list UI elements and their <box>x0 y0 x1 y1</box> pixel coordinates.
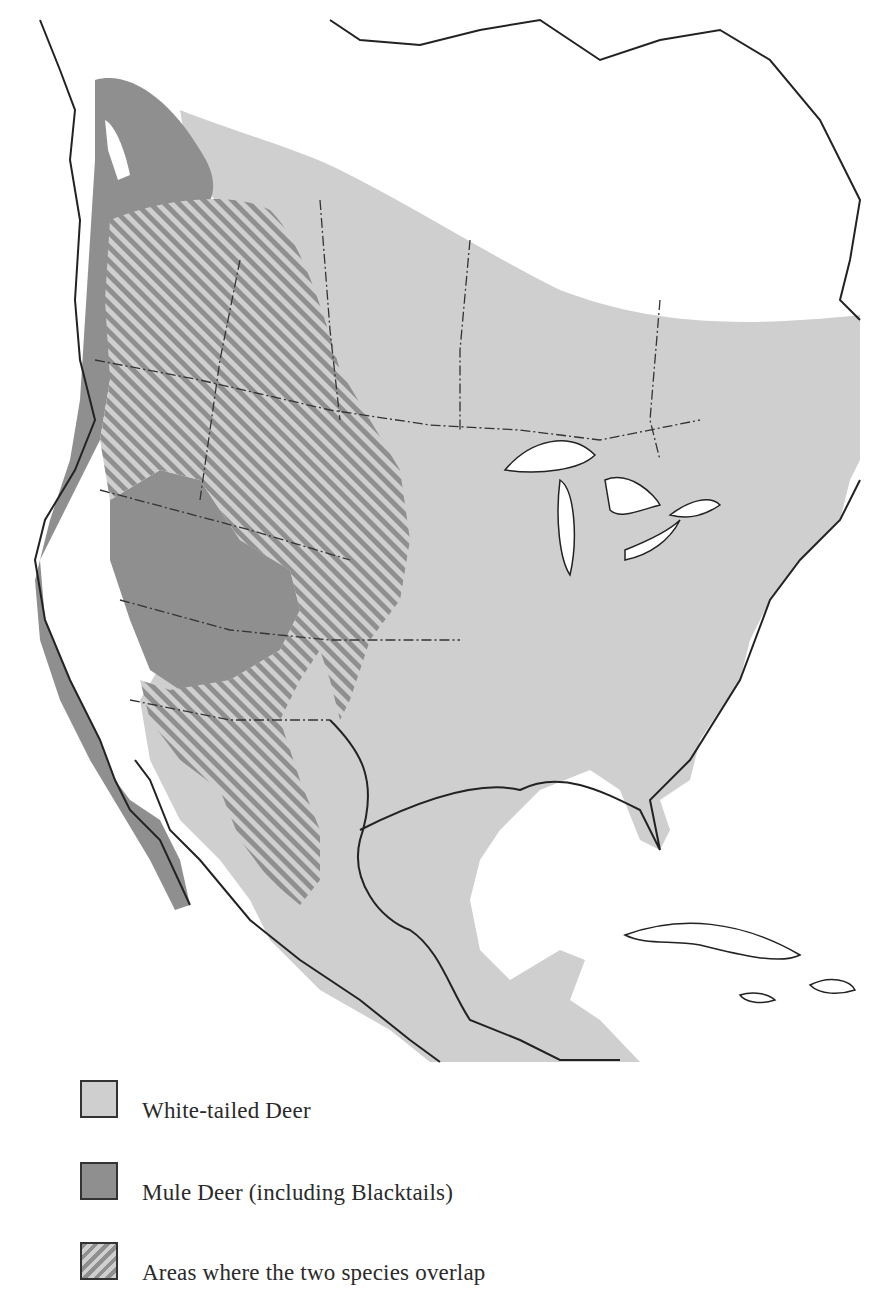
no-deer-desert <box>110 626 133 760</box>
legend-item-white-tailed: White-tailed Deer <box>80 1080 680 1130</box>
legend-label-white-tailed: White-tailed Deer <box>142 1098 311 1124</box>
legend-item-mule: Mule Deer (including Blacktails) <box>80 1162 680 1212</box>
legend-label-overlap: Areas where the two species overlap <box>142 1260 486 1286</box>
no-deer-central-valley <box>75 557 102 650</box>
legend-label-mule: Mule Deer (including Blacktails) <box>142 1180 453 1206</box>
overlap-swatch <box>80 1242 118 1280</box>
mule-deer-swatch <box>80 1162 118 1200</box>
caribbean-islands <box>625 923 855 1002</box>
deer-range-map <box>0 0 877 1070</box>
white-tailed-swatch <box>80 1080 118 1118</box>
legend-item-overlap: Areas where the two species overlap <box>80 1242 680 1292</box>
